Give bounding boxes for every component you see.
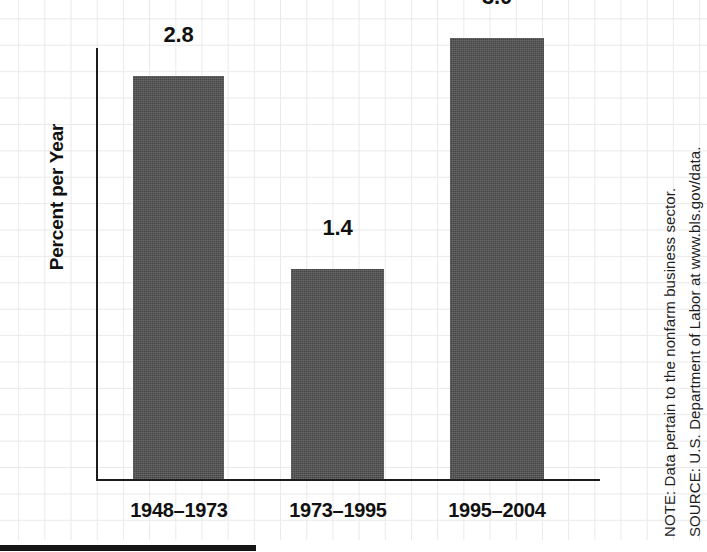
- source-annotation: SOURCE: U.S. Department of Labor at www.…: [687, 147, 702, 537]
- bar-1973-1995[interactable]: [291, 269, 384, 479]
- bottom-divider-rule: [0, 545, 256, 551]
- y-axis-line: [96, 48, 98, 481]
- chart-page: Percent per Year 2.8 1.4 3.0 1948–1973 1…: [0, 0, 707, 552]
- x-tick-label-1948-1973: 1948–1973: [116, 500, 242, 520]
- note-annotation: NOTE: Data pertain to the nonfarm busine…: [662, 188, 677, 537]
- x-axis-line: [96, 479, 600, 481]
- bar-value-1973-1995: 1.4: [291, 217, 384, 239]
- x-tick-label-1995-2004: 1995–2004: [434, 500, 560, 520]
- y-axis-title: Percent per Year: [46, 87, 70, 307]
- x-tick-label-1973-1995: 1973–1995: [275, 500, 401, 520]
- bar-value-1948-1973: 2.8: [133, 24, 224, 46]
- bar-1995-2004[interactable]: [450, 38, 544, 479]
- bar-value-1995-2004: 3.0: [450, 0, 544, 8]
- bar-1948-1973[interactable]: [133, 76, 224, 479]
- plot-area: 2.8 1.4 3.0 1948–1973 1973–1995 1995–200…: [96, 48, 600, 481]
